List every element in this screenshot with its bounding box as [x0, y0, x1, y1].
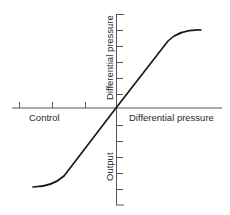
- vertical-ticks: [116, 15, 124, 206]
- vertical-differential-pressure-label: Differential pressure: [104, 15, 115, 100]
- control-label: Control: [29, 112, 60, 123]
- output-label: Output: [104, 152, 115, 181]
- horizontal-differential-pressure-label: Differential pressure: [129, 112, 214, 123]
- diagram-canvas: Control Differential pressure Differenti…: [0, 0, 230, 215]
- characteristic-diagram: Control Differential pressure Differenti…: [0, 0, 230, 215]
- horizontal-ticks: [20, 102, 86, 108]
